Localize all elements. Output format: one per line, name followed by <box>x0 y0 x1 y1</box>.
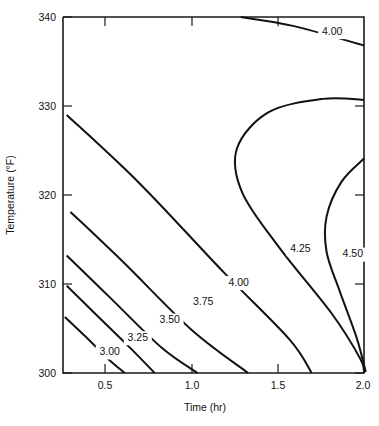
x-tick-label-0-5: 0.5 <box>98 379 113 391</box>
contour-label-4.25: 4.25 <box>290 242 311 254</box>
x-tick-label-2-0: 2.0 <box>356 379 371 391</box>
contour-line-4.50 <box>325 159 366 373</box>
x-tick-label-1-0: 1.0 <box>185 379 200 391</box>
contour-label-4.00: 4.00 <box>228 276 249 288</box>
y-tick-label-320: 320 <box>38 189 56 201</box>
y-tick-label-300: 300 <box>38 367 56 379</box>
y-axis-title: Temperature (°F) <box>4 155 16 234</box>
y-tick-label-330: 330 <box>38 100 56 112</box>
contour-label-3.75: 3.75 <box>193 295 214 307</box>
x-axis-ticks <box>105 364 364 373</box>
contour-plot: 340 330 320 310 300 0.5 1.0 1.5 2.0 Time… <box>0 0 379 426</box>
contour-label-3.25: 3.25 <box>128 331 149 343</box>
contour-label-3.00: 3.00 <box>99 345 120 357</box>
y-tick-label-310: 310 <box>38 278 56 290</box>
contour-label-3.50: 3.50 <box>159 313 180 325</box>
y-tick-label-340: 340 <box>38 11 56 23</box>
x-tick-label-1-5: 1.5 <box>271 379 286 391</box>
x-axis-title: Time (hr) <box>184 401 226 413</box>
contour-label-4.00-top: 4.00 <box>322 25 343 37</box>
contour-layer <box>65 17 366 373</box>
plot-frame <box>63 17 364 373</box>
contour-label-4.50: 4.50 <box>343 247 364 259</box>
contour-label-layer: 3.003.253.503.754.004.254.504.00 <box>96 25 367 360</box>
y-axis-ticks-right <box>355 106 364 373</box>
contour-line-4.25 <box>235 98 364 373</box>
plot-svg: 340 330 320 310 300 0.5 1.0 1.5 2.0 Time… <box>0 0 379 426</box>
